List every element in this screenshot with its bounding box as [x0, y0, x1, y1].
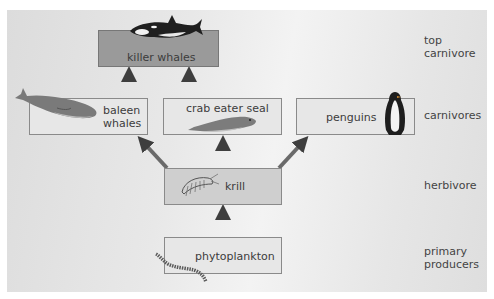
- penguin-icon: [383, 90, 407, 138]
- whale-icon: [13, 86, 101, 122]
- level-herbivore-label: herbivore: [424, 180, 477, 193]
- node-krill-label: krill: [225, 180, 245, 193]
- node-baleen-whales-label-1: baleen: [103, 104, 140, 117]
- level-primary-producers: primary producers: [424, 246, 479, 271]
- level-top-carnivore-line1: top: [424, 35, 475, 48]
- node-killer-whales-label: killer whales: [127, 51, 196, 64]
- level-carnivores-label: carnivores: [424, 110, 481, 123]
- krill-icon: [178, 172, 220, 198]
- seal-icon: [186, 114, 258, 134]
- level-top-carnivore-line2: carnivore: [424, 48, 475, 61]
- level-carnivores: carnivores: [424, 110, 481, 123]
- level-primary-producers-line1: primary: [424, 246, 479, 259]
- level-herbivore: herbivore: [424, 180, 477, 193]
- arrow-krill-to-penguins: [279, 142, 303, 168]
- phytoplankton-icon: [154, 250, 210, 286]
- node-baleen-whales-label-2: whales: [103, 117, 141, 130]
- level-primary-producers-line2: producers: [424, 259, 479, 272]
- node-penguins-label: penguins: [326, 111, 376, 124]
- level-top-carnivore: top carnivore: [424, 35, 475, 60]
- orca-icon: [128, 13, 204, 45]
- arrow-krill-to-baleen-whales: [143, 142, 167, 168]
